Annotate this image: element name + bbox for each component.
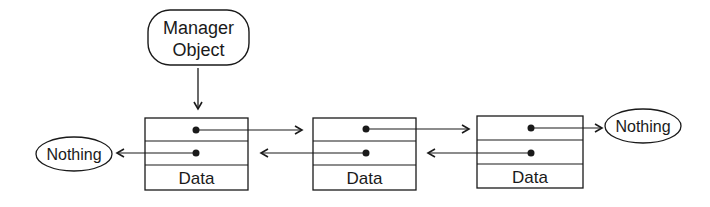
manager-label-line1: Manager	[163, 18, 234, 38]
node-data-label: Data	[347, 169, 383, 188]
nothing-terminal-left: Nothing	[36, 137, 112, 171]
node-data-label: Data	[512, 168, 548, 187]
node-data-label: Data	[179, 169, 215, 188]
manager-label-line2: Object	[172, 40, 224, 60]
nothing-right-label: Nothing	[615, 118, 670, 135]
list-node-3: Data	[477, 116, 583, 188]
nothing-left-label: Nothing	[46, 146, 101, 163]
linked-list-diagram: Manager Object Data Data Data N	[0, 0, 710, 207]
nothing-terminal-right: Nothing	[605, 109, 681, 143]
list-node-1: Data	[145, 118, 248, 190]
manager-object: Manager Object	[148, 10, 249, 65]
